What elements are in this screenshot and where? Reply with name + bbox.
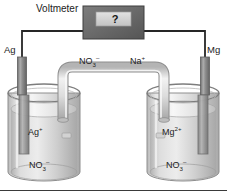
magnesium-electrode [198, 57, 210, 154]
salt-bridge-sodium-charge: + [142, 54, 146, 61]
left-anion-base: NO [29, 160, 43, 170]
salt-bridge-sodium-label: Na+ [130, 57, 145, 66]
galvanic-cell-figure: Voltmeter ? Ag Mg NO3– Na+ Ag+ NO3– Mg2+… [0, 0, 227, 191]
left-anion-sub: 3 [43, 165, 46, 172]
salt-bridge-nitrate-base: NO [79, 56, 93, 66]
right-anion-charge: – [183, 158, 186, 165]
left-solution-cation-label: Ag+ [28, 128, 43, 137]
right-solution-anion-label: NO3– [166, 161, 186, 170]
wire-right [144, 31, 205, 57]
salt-bridge-nitrate-charge: – [96, 54, 99, 61]
right-cation-base: Mg [162, 127, 175, 137]
salt-bridge-sodium-base: Na [130, 56, 142, 66]
silver-electrode [18, 57, 30, 154]
wire-left [22, 31, 83, 57]
salt-bridge-nitrate-sub: 3 [93, 61, 96, 68]
left-solution-anion-label: NO3– [29, 161, 49, 170]
silver-electrode-label: Ag [4, 45, 16, 55]
voltmeter-label: Voltmeter [36, 4, 78, 14]
right-anion-sub: 3 [180, 165, 183, 172]
right-cation-charge: 2+ [175, 125, 182, 132]
left-cation-charge: + [39, 125, 43, 132]
right-anion-base: NO [166, 160, 180, 170]
right-solution-cation-label: Mg2+ [162, 128, 181, 137]
magnesium-electrode-label: Mg [207, 45, 220, 55]
salt-bridge-nitrate-label: NO3– [79, 57, 99, 66]
left-anion-charge: – [46, 158, 49, 165]
left-cation-base: Ag [28, 127, 39, 137]
voltmeter-reading: ? [108, 13, 122, 25]
electrode-marker-left [62, 133, 71, 138]
